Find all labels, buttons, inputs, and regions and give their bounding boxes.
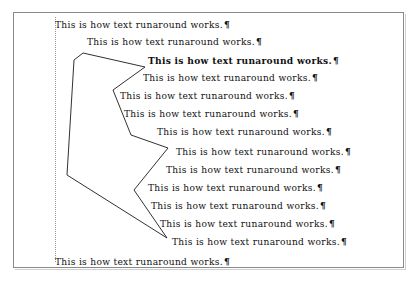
text-line-content: This is how text runaround works. xyxy=(148,183,316,193)
pilcrow-mark: ¶ xyxy=(334,164,341,175)
text-line-content: This is how text runaround works. xyxy=(157,127,325,137)
pilcrow-mark: ¶ xyxy=(316,182,323,193)
document-screenshot: This is how text runaround works.¶ This … xyxy=(0,0,417,288)
text-line-content: This is how text runaround works. xyxy=(148,55,332,66)
text-line-content: This is how text runaround works. xyxy=(87,37,255,47)
text-line: This is how text runaround works.¶ xyxy=(120,91,295,101)
text-line-content: This is how text runaround works. xyxy=(143,73,311,83)
text-line-content: This is how text runaround works. xyxy=(172,237,340,247)
text-line: This is how text runaround works.¶ xyxy=(176,147,351,157)
pilcrow-mark: ¶ xyxy=(255,36,262,47)
text-line: This is how text runaround works.¶ xyxy=(148,56,339,66)
text-line: This is how text runaround works.¶ xyxy=(148,183,323,193)
text-line-content: This is how text runaround works. xyxy=(124,109,292,119)
text-line-content: This is how text runaround works. xyxy=(160,219,328,229)
text-line: This is how text runaround works.¶ xyxy=(157,127,332,137)
pilcrow-mark: ¶ xyxy=(319,200,326,211)
pilcrow-mark: ¶ xyxy=(292,108,299,119)
text-line-content: This is how text runaround works. xyxy=(151,201,319,211)
pilcrow-mark: ¶ xyxy=(223,19,230,30)
text-line: This is how text runaround works.¶ xyxy=(166,165,341,175)
text-line-content: This is how text runaround works. xyxy=(176,147,344,157)
text-line-content: This is how text runaround works. xyxy=(55,20,223,30)
pilcrow-mark: ¶ xyxy=(340,236,347,247)
text-line: This is how text runaround works.¶ xyxy=(151,201,326,211)
text-line-content: This is how text runaround works. xyxy=(120,91,288,101)
text-line-content: This is how text runaround works. xyxy=(55,257,223,267)
pilcrow-mark: ¶ xyxy=(332,55,339,66)
pilcrow-mark: ¶ xyxy=(288,90,295,101)
text-line: This is how text runaround works.¶ xyxy=(87,37,262,47)
pilcrow-mark: ¶ xyxy=(311,72,318,83)
text-line-content: This is how text runaround works. xyxy=(166,165,334,175)
pilcrow-mark: ¶ xyxy=(325,126,332,137)
pilcrow-mark: ¶ xyxy=(344,146,351,157)
text-line: This is how text runaround works.¶ xyxy=(55,257,230,267)
text-line: This is how text runaround works.¶ xyxy=(143,73,318,83)
text-line: This is how text runaround works.¶ xyxy=(172,237,347,247)
pilcrow-mark: ¶ xyxy=(223,256,230,267)
text-body: This is how text runaround works.¶ This … xyxy=(0,0,417,288)
text-line: This is how text runaround works.¶ xyxy=(55,20,230,30)
pilcrow-mark: ¶ xyxy=(328,218,335,229)
text-line: This is how text runaround works.¶ xyxy=(124,109,299,119)
text-line: This is how text runaround works.¶ xyxy=(160,219,335,229)
